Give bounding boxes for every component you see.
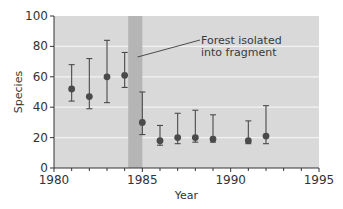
- species-chart: 0204060801001980198519901995 Forest isol…: [0, 0, 343, 209]
- y-tick-label: 80: [33, 39, 48, 53]
- x-tick-label: 1995: [304, 173, 335, 187]
- x-tick-label: 1980: [39, 173, 70, 187]
- annotation-text: into fragment: [201, 46, 277, 59]
- y-tick-label: 20: [33, 131, 48, 145]
- y-tick-label: 60: [33, 70, 48, 84]
- marker: [139, 119, 146, 126]
- y-tick-label: 100: [25, 9, 48, 23]
- x-tick-label: 1985: [127, 173, 158, 187]
- marker: [263, 133, 270, 140]
- y-tick-label: 40: [33, 100, 48, 114]
- marker: [68, 86, 75, 93]
- marker: [174, 134, 181, 141]
- marker: [245, 137, 252, 144]
- marker: [121, 72, 128, 79]
- y-axis-label: Species: [12, 71, 25, 114]
- x-axis-label: Year: [174, 189, 199, 202]
- marker: [157, 137, 164, 144]
- x-tick-label: 1990: [215, 173, 246, 187]
- marker: [210, 136, 217, 143]
- marker: [86, 93, 93, 100]
- marker: [192, 134, 199, 141]
- marker: [104, 73, 111, 80]
